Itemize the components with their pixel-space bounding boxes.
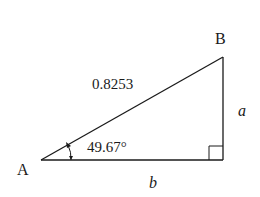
right-angle-marker xyxy=(209,146,223,160)
side-a-label: a xyxy=(238,102,246,119)
triangle-diagram: B A 0.8253 49.67° a b xyxy=(0,0,260,197)
angle-a-label: 49.67° xyxy=(87,139,127,155)
vertex-a-label: A xyxy=(17,161,29,178)
side-b-label: b xyxy=(149,174,157,191)
vertex-b-label: B xyxy=(215,30,226,47)
hypotenuse-label: 0.8253 xyxy=(92,76,133,92)
